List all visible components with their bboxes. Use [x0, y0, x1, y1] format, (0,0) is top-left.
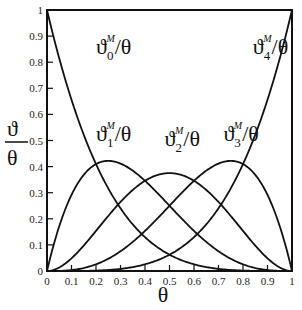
x-tick-label: 0 — [44, 275, 50, 287]
annotation-2: ϑ2M/θ — [165, 125, 200, 155]
x-tick-label: 0.7 — [212, 275, 226, 287]
chart: 00.10.20.30.40.50.60.70.80.9100.10.20.30… — [0, 0, 302, 310]
annotation-4: ϑ4M/θ — [253, 33, 288, 63]
x-tick-label: 0.6 — [187, 275, 201, 287]
x-tick-label: 0.3 — [114, 275, 128, 287]
curve-2 — [47, 173, 292, 271]
x-tick-label: 1 — [289, 275, 295, 287]
y-axis-label-den: θ — [7, 145, 18, 170]
x-tick-label: 0.2 — [89, 275, 103, 287]
curve-annotations: ϑ0M/θϑ1M/θϑ2M/θϑ3M/θϑ4M/θ — [96, 33, 288, 154]
y-tick-label: 1 — [38, 4, 44, 16]
x-tick-label: 0.9 — [261, 275, 275, 287]
annotation-3: ϑ3M/θ — [223, 120, 258, 150]
annotation-1: ϑ1M/θ — [96, 120, 131, 150]
y-tick-label: 0.9 — [29, 30, 43, 42]
y-tick-label: 0.4 — [29, 161, 43, 173]
annotation-0: ϑ0M/θ — [96, 33, 131, 63]
y-tick-label: 0 — [38, 265, 44, 277]
y-axis-label-num: ϑ — [7, 116, 18, 141]
y-tick-label: 0.2 — [29, 213, 43, 225]
y-tick-label: 0.5 — [29, 135, 43, 147]
x-tick-label: 0.1 — [65, 275, 79, 287]
y-tick-label: 0.1 — [29, 239, 43, 251]
y-tick-label: 0.3 — [29, 187, 43, 199]
y-tick-label: 0.6 — [29, 108, 43, 120]
x-tick-label: 0.4 — [138, 275, 152, 287]
y-tick-label: 0.7 — [29, 82, 43, 94]
x-tick-label: 0.8 — [236, 275, 250, 287]
y-tick-label: 0.8 — [29, 56, 43, 68]
x-axis-label: θ — [158, 282, 169, 307]
